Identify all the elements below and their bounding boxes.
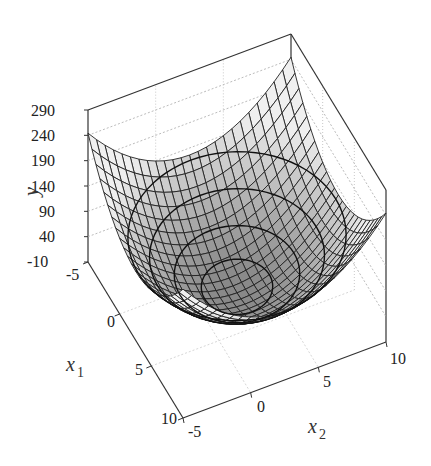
x1-tick: -5 [66, 266, 79, 283]
y-tick: 290 [31, 102, 55, 119]
y-tick: 240 [31, 127, 55, 144]
y-tick: 190 [31, 152, 55, 169]
y-tick: 90 [39, 203, 55, 220]
surface-mesh [88, 57, 386, 324]
x1-tick: 10 [161, 410, 177, 427]
x1-tick: 0 [107, 313, 115, 330]
x2-tick: -5 [188, 423, 201, 440]
x2-axis-label: x2 [307, 415, 326, 442]
y-axis-label: y [20, 187, 43, 198]
x2-tick: 10 [390, 350, 406, 367]
y-tick: 40 [39, 228, 55, 245]
x2-tick: 0 [257, 398, 265, 415]
x2-tick-labels: -5 0 5 10 [188, 350, 406, 440]
x1-axis-label: x1 [65, 353, 84, 380]
x2-tick: 5 [323, 373, 331, 390]
x1-tick: 5 [135, 361, 143, 378]
surface-plot: 290 240 190 140 90 40 -10 y -5 0 5 10 x1… [0, 0, 431, 466]
y-tick: -10 [27, 253, 48, 270]
y-tick-labels: 290 240 190 140 90 40 -10 [27, 102, 55, 270]
